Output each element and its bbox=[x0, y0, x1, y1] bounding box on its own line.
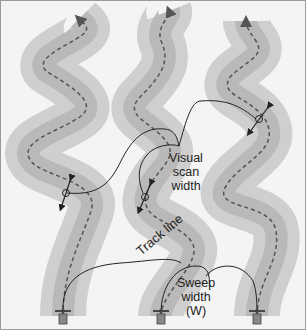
searcher-icon-left bbox=[55, 309, 71, 324]
label-line: Sweep bbox=[166, 276, 226, 290]
label-line: (W) bbox=[166, 304, 226, 318]
visual-scan-width-label: Visual scan width bbox=[156, 151, 216, 193]
right-track bbox=[224, 21, 277, 316]
sweep-width-label: Sweep width (W) bbox=[166, 276, 226, 318]
diagram-canvas: Track line bbox=[1, 1, 305, 329]
label-line: Visual bbox=[156, 151, 216, 165]
label-line: width bbox=[156, 179, 216, 193]
left-track bbox=[28, 19, 92, 316]
search-pattern-diagram: Track line Visual scan width Sweep width… bbox=[0, 0, 306, 330]
label-line: scan bbox=[156, 165, 216, 179]
label-line: width bbox=[166, 290, 226, 304]
searcher-icon-right bbox=[249, 309, 265, 324]
